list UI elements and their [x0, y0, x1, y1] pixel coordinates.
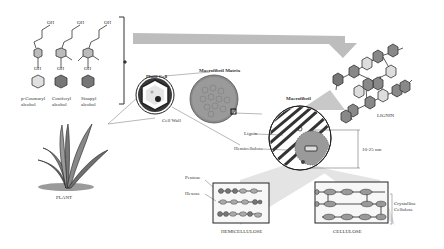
size-label: 10-25 nm — [362, 147, 381, 153]
biomass-diagram — [0, 0, 444, 249]
cellulose-illustration — [315, 182, 392, 224]
monolignol-name-coniferyl: Coniferyl alcohol — [52, 96, 71, 108]
macrofibril-matrix-illustration — [190, 75, 238, 123]
lignin-title: LIGNIN — [377, 113, 394, 119]
hemicellulose-title: HEMICELLULOSE — [221, 229, 262, 235]
oh-label-6: OH — [84, 66, 91, 72]
zoom-lines — [108, 72, 262, 145]
lignin-leader-label: Lignin — [244, 131, 257, 137]
hemicellulose-illustration — [205, 180, 269, 223]
cell-wall-label: Cell Wall — [162, 118, 181, 124]
oh-label-3: OH — [104, 20, 111, 26]
plant-cell-label: Plant Cell — [146, 74, 167, 80]
plant-label: PLANT — [56, 195, 72, 201]
hexose-label: Hexose — [185, 191, 200, 197]
big-arrow-icon — [133, 33, 357, 58]
pentose-label: Pentose — [185, 175, 201, 181]
cellulose-title: CELLULOSE — [333, 229, 362, 235]
monolignol-name-coumaryl: p-Coumaryl alcohol — [21, 96, 45, 108]
oh-label-4: OH — [34, 66, 41, 72]
monolignol-structures — [32, 25, 107, 88]
hemicellulose-leader-label: Hemicellulose — [234, 146, 263, 152]
plant-cell-illustration — [136, 76, 174, 114]
oh-label-5: OH — [57, 66, 64, 72]
monolignol-name-sinapyl: Sinapyl alcohol — [81, 96, 96, 108]
bracket-icon — [119, 17, 126, 104]
macrofibril-label: Macrofibril — [286, 96, 311, 102]
plant-illustration — [38, 124, 108, 191]
macrofibril-matrix-label: Macrofibril Matrix — [199, 68, 240, 74]
crystalline-cellulose-label: Crystalline Cellulose — [394, 201, 416, 213]
oh-label-2: OH — [77, 20, 84, 26]
oh-label-1: OH — [47, 20, 54, 26]
